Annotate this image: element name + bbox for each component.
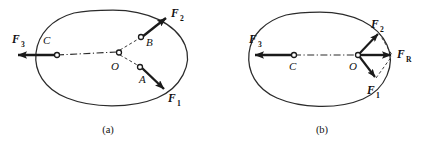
construction-line-ob-a	[120, 38, 140, 50]
construction-line-oa-a	[120, 55, 139, 66]
caption-panel-b: (b)	[316, 124, 329, 136]
point-c-marker-a	[55, 53, 60, 58]
label-fr-subscript-b: R	[406, 55, 412, 64]
figure-canvas: C O B A F 3 F 2 F 1 (a)	[0, 0, 430, 148]
label-f3-subscript-a: 3	[21, 40, 25, 49]
label-f1-symbol-b: F	[366, 84, 375, 96]
panel-a-group: C O B A F 3 F 2 F 1 (a)	[11, 7, 187, 136]
label-force-fr-b: F R	[396, 48, 412, 64]
force-diagram-figure: C O B A F 3 F 2 F 1 (a)	[0, 0, 430, 148]
label-point-b-a: B	[146, 36, 153, 48]
rigid-body-outline-a	[36, 10, 188, 106]
label-force-f2-a: F 2	[170, 7, 184, 23]
label-f2-subscript-b: 2	[380, 25, 384, 34]
label-f1-subscript-a: 1	[177, 99, 181, 108]
label-f2-symbol-b: F	[370, 18, 379, 30]
caption-panel-a: (a)	[102, 124, 114, 136]
label-f3-subscript-b: 3	[258, 40, 262, 49]
label-force-f3-a: F 3	[11, 33, 25, 49]
label-f1-subscript-b: 1	[376, 91, 380, 100]
point-b-marker-a	[139, 35, 144, 40]
point-c-marker-b	[292, 53, 297, 58]
label-f3-symbol-b: F	[248, 33, 257, 45]
parallelogram-side-f2-to-fr-b	[379, 33, 392, 55]
force-f1-shaft-b	[359, 56, 375, 77]
center-line-co-a	[57, 52, 117, 55]
panel-b-group: C O F 3 F 2 F 1 F R (b)	[248, 12, 412, 136]
label-f1-symbol-a: F	[167, 92, 176, 104]
label-f2-symbol-a: F	[170, 7, 179, 19]
label-fr-symbol-b: F	[396, 48, 405, 60]
label-point-c-a: C	[43, 34, 51, 46]
label-point-o-a: O	[111, 60, 119, 72]
point-o-marker-b	[356, 53, 361, 58]
label-force-f1-a: F 1	[167, 92, 181, 108]
label-point-c-b: C	[289, 60, 297, 72]
force-f2-shaft-b	[359, 34, 378, 54]
point-o-marker-a	[117, 50, 122, 55]
point-a-marker-a	[138, 65, 143, 70]
label-f3-symbol-a: F	[11, 33, 20, 45]
label-f2-subscript-a: 2	[180, 14, 184, 23]
label-point-a-a: A	[138, 73, 146, 85]
label-point-o-b: O	[349, 60, 357, 72]
force-f2-shaft-a	[142, 18, 166, 37]
